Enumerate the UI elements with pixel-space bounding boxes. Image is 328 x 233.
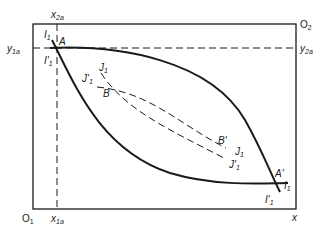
curve-i1-prime-label-top: I'1: [44, 55, 53, 67]
curve-j1-prime-label-top: J'1: [81, 73, 93, 85]
y2a-label: y2a: [299, 43, 313, 55]
y1a-label: y1a: [6, 43, 20, 55]
curve-j1-label-bottom: J1: [234, 146, 244, 158]
point-b-prime-label: B': [218, 135, 228, 146]
edgeworth-box-diagram: O1 O2 x1a x2a y1a y2a x A A' B B' I1 I'1…: [0, 0, 328, 233]
origin-o1-label: O1: [22, 213, 34, 225]
curve-j1-prime-label-bottom: J'1: [228, 159, 240, 171]
origin-o2-label: O2: [300, 19, 312, 31]
point-b-label: B: [103, 88, 110, 99]
curve-i1-label-top: I1: [44, 29, 51, 41]
curve-i1-prime-label-bottom: I'1: [265, 194, 274, 206]
indifference-curve-j1-prime: [97, 87, 226, 148]
curve-j1-label-top: J1: [98, 62, 108, 74]
point-a-prime-label: A': [274, 168, 285, 179]
x-axis-label: x: [291, 212, 298, 223]
x1a-label: x1a: [50, 213, 64, 225]
point-a-label: A: [58, 36, 66, 47]
indifference-curve-i1-prime: [52, 40, 288, 184]
indifference-curve-j1: [101, 73, 224, 158]
edgeworth-box-frame: [33, 24, 296, 209]
x2a-label: x2a: [50, 9, 64, 21]
curve-i1-label-bottom: I1: [284, 180, 291, 192]
